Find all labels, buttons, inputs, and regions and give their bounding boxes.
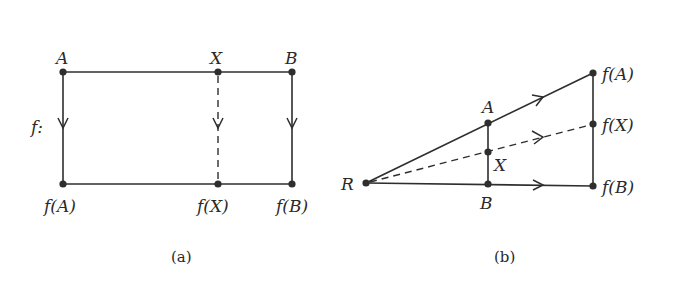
caption-a: (a) xyxy=(171,248,192,266)
ray-R-fX-dashed xyxy=(370,125,590,182)
label-fX: f(X) xyxy=(195,196,229,216)
point-fB xyxy=(288,180,295,187)
arrow-down-icon xyxy=(213,118,223,128)
label-R: R xyxy=(340,174,354,194)
map-label-f: f: xyxy=(29,117,43,137)
ray-R-fA xyxy=(366,73,593,183)
point-fX xyxy=(214,180,221,187)
point-fB xyxy=(589,182,596,189)
label-fB: f(B) xyxy=(600,177,634,197)
arrow-right-icon xyxy=(532,131,543,144)
point-fA xyxy=(59,180,66,187)
label-fA: f(A) xyxy=(600,64,634,84)
figure-canvas: A X B f: f(A) f(X) f(B) (a) R A X B f(A)… xyxy=(0,0,676,297)
point-A xyxy=(484,119,491,126)
label-B: B xyxy=(479,193,493,213)
panel-b: R A X B f(A) f(X) f(B) (b) xyxy=(340,64,634,266)
label-X: X xyxy=(208,48,223,68)
label-fA: f(A) xyxy=(42,196,76,216)
point-fX xyxy=(589,120,596,127)
label-fX: f(X) xyxy=(600,115,634,135)
ray-R-fB xyxy=(366,183,593,186)
point-R xyxy=(362,179,369,186)
label-fB: f(B) xyxy=(274,196,308,216)
label-X: X xyxy=(492,155,507,175)
point-A xyxy=(59,68,66,75)
point-B xyxy=(288,68,295,75)
point-X xyxy=(214,68,221,75)
label-A: A xyxy=(54,48,68,68)
panel-a: A X B f: f(A) f(X) f(B) (a) xyxy=(29,48,308,266)
point-fA xyxy=(589,69,596,76)
point-X xyxy=(484,148,491,155)
point-B xyxy=(484,180,491,187)
caption-b: (b) xyxy=(494,248,515,266)
label-B: B xyxy=(284,48,298,68)
label-A: A xyxy=(480,97,494,117)
